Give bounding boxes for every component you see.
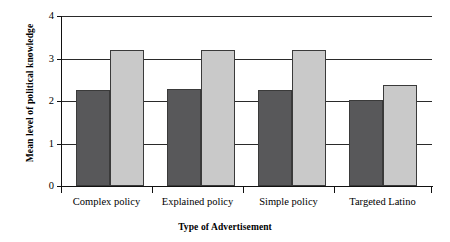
y-tick-mark-4 bbox=[57, 16, 62, 17]
y-tick-label-4: 4 bbox=[38, 11, 54, 22]
gridline-4 bbox=[62, 16, 432, 17]
bar-targeted-latino-light bbox=[383, 85, 417, 186]
bar-explained-policy-light bbox=[201, 50, 235, 186]
x-category-label-targeted-latino: Targeted Latino bbox=[334, 196, 431, 207]
y-tick-label-3: 3 bbox=[38, 54, 54, 65]
x-tick-mark-4 bbox=[431, 186, 432, 193]
x-category-label-simple-policy: Simple policy bbox=[243, 196, 334, 207]
x-tick-mark-0 bbox=[61, 186, 62, 193]
bar-explained-policy-dark bbox=[167, 89, 201, 186]
y-tick-mark-3 bbox=[57, 59, 62, 60]
x-axis-line bbox=[59, 186, 433, 187]
bar-complex-policy-light bbox=[110, 50, 144, 186]
y-tick-label-0: 0 bbox=[38, 181, 54, 192]
y-tick-label-2: 2 bbox=[38, 96, 54, 107]
x-tick-mark-2 bbox=[243, 186, 244, 193]
y-axis-tick-labels: 4 3 2 1 0 bbox=[30, 0, 54, 242]
x-category-label-complex-policy: Complex policy bbox=[61, 196, 152, 207]
y-tick-mark-2 bbox=[57, 101, 62, 102]
bar-simple-policy-light bbox=[292, 50, 326, 186]
bar-chart-figure: Mean level of political knowledge 4 3 2 … bbox=[0, 0, 450, 242]
x-tick-mark-3 bbox=[334, 186, 335, 193]
x-axis-title: Type of Advertisement bbox=[0, 222, 450, 232]
bar-targeted-latino-dark bbox=[349, 100, 383, 186]
y-tick-label-1: 1 bbox=[38, 139, 54, 150]
x-category-label-explained-policy: Explained policy bbox=[152, 196, 243, 207]
x-tick-mark-1 bbox=[152, 186, 153, 193]
bar-simple-policy-dark bbox=[258, 90, 292, 186]
plot-area bbox=[61, 16, 432, 186]
bar-complex-policy-dark bbox=[76, 90, 110, 186]
y-tick-mark-1 bbox=[57, 144, 62, 145]
